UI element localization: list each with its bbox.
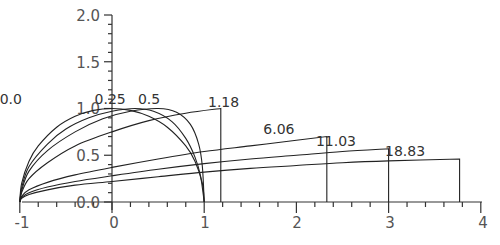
curve-label-18.83: 18.83: [385, 143, 425, 159]
curve-label-6.06: 6.06: [263, 121, 294, 137]
curve-6.06: [20, 137, 327, 202]
curve-label-0.0: 0.0: [0, 91, 22, 107]
x-tick-label: -1: [15, 214, 30, 232]
x-tick-label: 2: [292, 214, 302, 232]
x-tick-label: 4: [478, 214, 488, 232]
y-tick-label: 1.5: [76, 54, 100, 72]
curve-labels: 0.0 0.25 0.5 1.18 6.06 11.03 18.83: [0, 91, 425, 159]
y-tick-label: 0.5: [76, 147, 100, 165]
x-tick-label: 3: [385, 214, 395, 232]
curve-label-0.25: 0.25: [95, 91, 126, 107]
y-tick-label: 0.0: [76, 194, 100, 212]
x-tick-label: 1: [200, 214, 210, 232]
x-tick-label: 0: [109, 214, 119, 232]
x-tick-labels: -1 0 1 2 3 4: [15, 214, 488, 232]
curve-label-0.5: 0.5: [138, 91, 160, 107]
y-tick-label: 2.0: [76, 7, 100, 25]
curve-1.18: [20, 109, 221, 203]
chart: -1 0 1 2 3 4 0.0 0.5 1.0 1.5 2.0 0.0 0.2…: [0, 0, 500, 245]
curve-label-1.18: 1.18: [208, 94, 239, 110]
curve-label-11.03: 11.03: [316, 133, 356, 149]
